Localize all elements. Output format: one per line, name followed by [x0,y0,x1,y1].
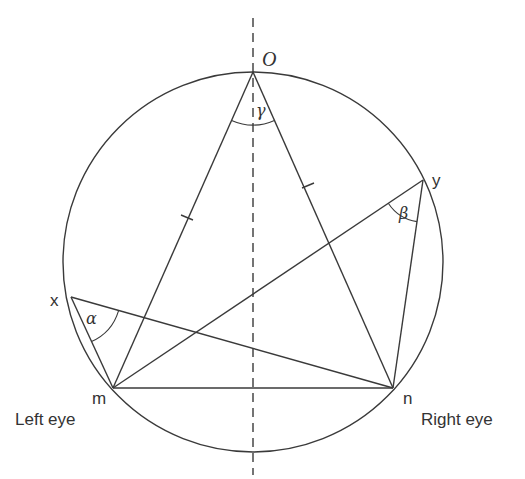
label-alpha: α [86,309,97,328]
label-n: n [403,389,412,408]
segment-O-n [253,72,393,388]
label-m: m [92,389,106,408]
label-beta: β [398,204,408,223]
label-O: O [262,48,276,70]
label-x: x [50,291,59,310]
caption-right-eye: Right eye [421,410,493,429]
label-y: y [432,171,441,190]
label-gamma: γ [256,101,266,120]
diagram-canvas: O x y m n γ α β Left eye Right eye [0,0,525,479]
caption-left-eye: Left eye [15,410,76,429]
